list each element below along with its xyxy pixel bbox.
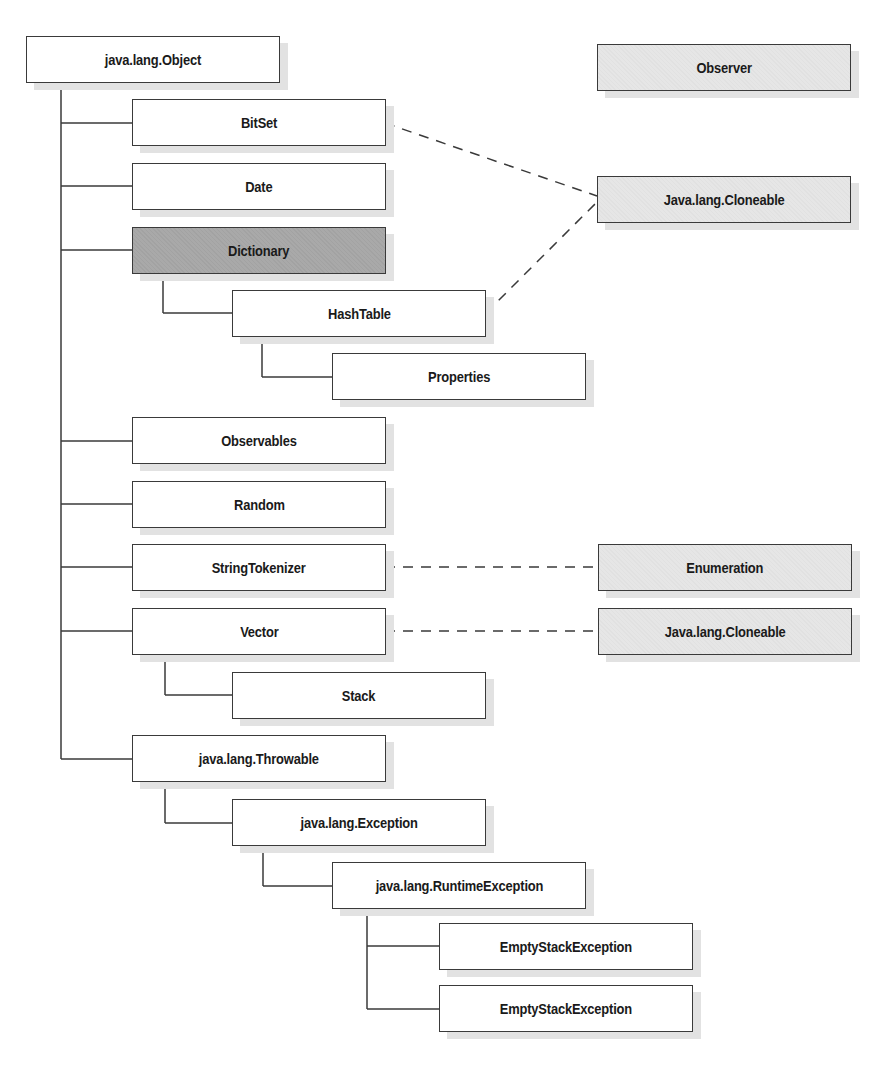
class-label: Observables (221, 432, 297, 449)
interface-box-enumeration[interactable]: Enumeration (598, 544, 852, 591)
class-label: java.lang.Exception (300, 814, 417, 831)
class-box-stack[interactable]: Stack (232, 672, 486, 719)
class-label: java.lang.Throwable (199, 750, 319, 767)
class-box-runtimeexception[interactable]: java.lang.RuntimeException (332, 862, 586, 909)
class-hierarchy-diagram: java.lang.Object BitSet Date Dictionary … (0, 0, 885, 1067)
interface-label: Java.lang.Cloneable (665, 623, 786, 640)
class-box-dictionary[interactable]: Dictionary (132, 227, 386, 274)
class-box-hashtable[interactable]: HashTable (232, 290, 486, 337)
class-label: HashTable (328, 305, 391, 322)
interface-label: Observer (696, 59, 751, 76)
class-box-properties[interactable]: Properties (332, 353, 586, 400)
class-label: StringTokenizer (212, 559, 306, 576)
class-label: Properties (428, 368, 490, 385)
class-label: java.lang.Object (105, 51, 201, 68)
class-label: EmptyStackException (500, 938, 632, 955)
class-box-vector[interactable]: Vector (132, 608, 386, 655)
class-box-stringtokenizer[interactable]: StringTokenizer (132, 544, 386, 591)
class-box-random[interactable]: Random (132, 481, 386, 528)
class-label: BitSet (241, 114, 277, 131)
interface-box-cloneable-top[interactable]: Java.lang.Cloneable (597, 176, 851, 223)
class-box-emptystackexception-1[interactable]: EmptyStackException (439, 923, 693, 970)
class-label: java.lang.RuntimeException (375, 877, 543, 894)
class-label: Vector (240, 623, 278, 640)
class-box-emptystackexception-2[interactable]: EmptyStackException (439, 985, 693, 1032)
interface-label: Java.lang.Cloneable (664, 191, 785, 208)
class-box-observables[interactable]: Observables (132, 417, 386, 464)
class-box-throwable[interactable]: java.lang.Throwable (132, 735, 386, 782)
class-box-date[interactable]: Date (132, 163, 386, 210)
class-label: Random (234, 496, 285, 513)
class-label: Stack (342, 687, 376, 704)
interface-box-cloneable-bottom[interactable]: Java.lang.Cloneable (598, 608, 852, 655)
interface-box-observer[interactable]: Observer (597, 44, 851, 91)
class-label: Dictionary (228, 242, 289, 259)
class-label: EmptyStackException (500, 1000, 632, 1017)
class-box-exception[interactable]: java.lang.Exception (232, 799, 486, 846)
class-box-java-lang-object[interactable]: java.lang.Object (26, 36, 280, 83)
class-label: Date (245, 178, 272, 195)
interface-label: Enumeration (687, 559, 764, 576)
class-box-bitset[interactable]: BitSet (132, 99, 386, 146)
